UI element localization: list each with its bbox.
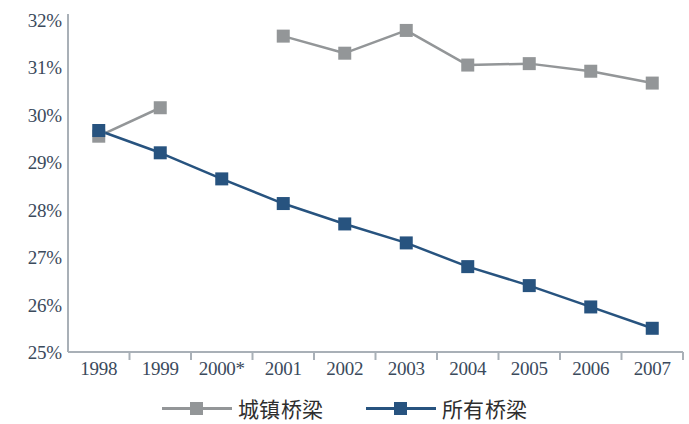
x-axis-tick-label: 2004 [437,358,499,386]
data-point-marker [154,101,167,114]
x-axis-tick-label: 2005 [499,358,561,386]
data-point-marker [523,57,536,70]
y-axis-tick-label: 25% [4,343,62,362]
axis-lines [68,14,683,352]
x-axis-tick-labels: 199819992000*200120022003200420052006200… [68,358,683,386]
data-point-marker [338,217,351,230]
x-axis-tick-label: 2003 [376,358,438,386]
data-point-marker [154,146,167,159]
legend-marker-all-bridges [394,402,407,415]
x-axis-tick-label: 2006 [560,358,622,386]
legend-marker-urban-bridges [190,402,203,415]
series-lines [99,30,653,328]
legend-swatch-all-bridges [366,399,436,417]
x-axis-tick-label: 1999 [130,358,192,386]
y-axis-tick-label: 28% [4,201,62,220]
chart-legend: 城镇桥梁 所有桥梁 [0,392,689,424]
data-point-marker [338,47,351,60]
line-chart: 32%31%30%29%28%27%26%25% 199819992000*20… [0,0,689,424]
x-axis-tick-label: 2007 [622,358,684,386]
x-axis-tick-label: 1998 [68,358,130,386]
data-point-marker [461,260,474,273]
data-point-marker [92,124,105,137]
data-point-marker [277,30,290,43]
y-axis-tick-label: 31% [4,58,62,77]
y-axis-tick-label: 26% [4,296,62,315]
data-point-marker [584,65,597,78]
data-point-marker [646,322,659,335]
data-point-marker [646,77,659,90]
y-axis-tick-label: 27% [4,248,62,267]
series-markers [92,24,659,335]
legend-item-all-bridges[interactable]: 所有桥梁 [366,393,528,423]
data-point-marker [92,130,105,143]
data-point-marker [215,172,228,185]
legend-item-urban-bridges[interactable]: 城镇桥梁 [162,393,324,423]
x-axis-tick-label: 2001 [253,358,315,386]
data-point-marker [277,197,290,210]
x-axis-tick-label: 2002 [314,358,376,386]
legend-swatch-urban-bridges [162,399,232,417]
data-point-marker [523,279,536,292]
data-point-marker [400,24,413,37]
data-point-marker [584,300,597,313]
legend-label-urban-bridges: 城镇桥梁 [238,393,324,423]
y-axis-tick-labels: 32%31%30%29%28%27%26%25% [0,0,62,424]
data-point-marker [400,236,413,249]
y-axis-tick-label: 29% [4,153,62,172]
y-axis-tick-label: 32% [4,11,62,30]
x-axis-tick-label: 2000* [191,358,253,386]
y-axis-tick-label: 30% [4,106,62,125]
legend-label-all-bridges: 所有桥梁 [442,393,528,423]
data-point-marker [461,59,474,72]
